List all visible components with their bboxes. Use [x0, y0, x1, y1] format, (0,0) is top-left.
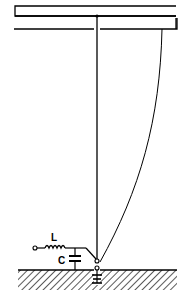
- feed-terminal: [95, 259, 99, 263]
- loading-capacitor: [69, 248, 81, 270]
- top-support-beam: [14, 6, 177, 29]
- loading-coil: [33, 246, 86, 251]
- capacitor-label: C: [58, 255, 65, 266]
- feed-lead: [86, 248, 96, 259]
- input-terminal: [33, 246, 37, 250]
- curved-guy-wire: [100, 29, 162, 262]
- antenna-diagram: L C: [0, 0, 184, 296]
- inductor-label: L: [51, 232, 57, 243]
